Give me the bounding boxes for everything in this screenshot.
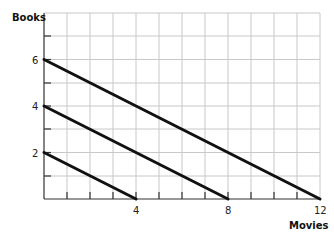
x-tick-label-8: 8 [225,205,231,216]
x-tick-label-4: 4 [133,205,139,216]
y-tick-label-2: 2 [32,148,38,159]
y-tick-label-6: 6 [32,55,38,66]
x-axis-title: Movies [289,220,329,231]
y-tick-label-4: 4 [32,101,38,112]
x-ticks [67,192,297,199]
y-axis-title: Books [12,12,46,23]
budget-line-chart: Books 6 4 2 4 8 12 Movies [0,0,334,239]
x-tick-label-12: 12 [314,205,327,216]
grid [44,13,320,199]
